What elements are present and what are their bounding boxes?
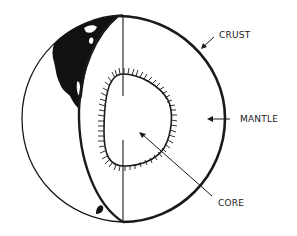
earth-layers-diagram: CRUST MANTLE CORE xyxy=(0,0,297,236)
core-boundary xyxy=(104,74,171,166)
crust-label: CRUST xyxy=(219,30,250,40)
florida-tip xyxy=(96,205,103,214)
mantle-label: MANTLE xyxy=(240,114,278,124)
core-arrow-shaft xyxy=(143,135,212,196)
mantle-arrow-head xyxy=(207,116,213,122)
core-label: CORE xyxy=(218,198,244,208)
